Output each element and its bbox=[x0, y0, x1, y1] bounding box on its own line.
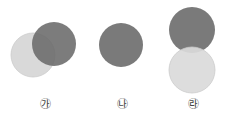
figure-label-na: ㉯ bbox=[112, 95, 132, 111]
light-circle bbox=[169, 47, 215, 93]
dark-circle bbox=[32, 22, 76, 66]
dark-circle bbox=[99, 23, 143, 67]
figure-label-ga: ㉮ bbox=[35, 95, 55, 111]
figure-ra bbox=[169, 7, 215, 93]
dark-circle bbox=[169, 7, 215, 53]
figure-na bbox=[99, 23, 143, 67]
figure-label-ra: ㉱ bbox=[183, 95, 203, 111]
figure-ga bbox=[11, 22, 76, 77]
